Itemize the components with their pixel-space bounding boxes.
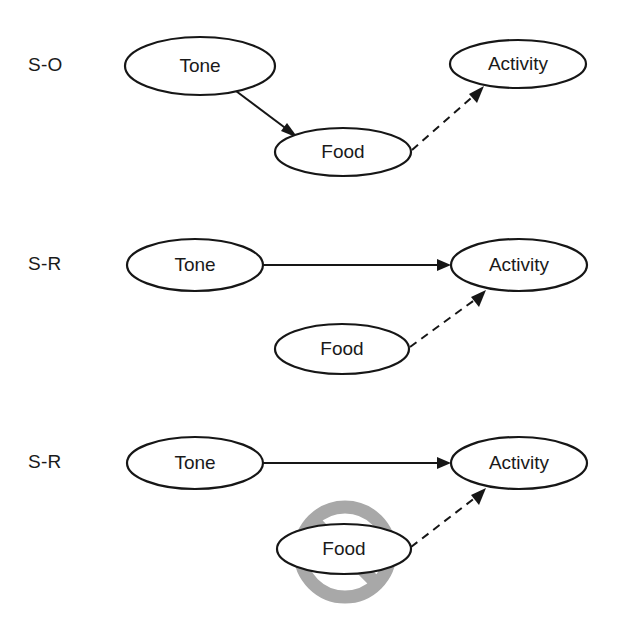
node-tone[interactable]: Tone xyxy=(127,239,263,291)
panel-s-r-2: S-R Tone Food xyxy=(28,437,587,597)
node-activity[interactable]: Activity xyxy=(451,437,587,489)
node-activity[interactable]: Activity xyxy=(451,239,587,291)
edge-tone-to-activity xyxy=(264,457,451,469)
node-activity[interactable]: Activity xyxy=(450,40,586,88)
node-label: Tone xyxy=(174,254,215,275)
node-label: Tone xyxy=(179,55,220,76)
edge-tone-to-activity xyxy=(264,259,451,271)
panel-s-r-1: S-R Tone Food Activity xyxy=(28,239,587,374)
figure-root: S-O Tone Food Activity xyxy=(0,0,617,633)
node-tone[interactable]: Tone xyxy=(127,437,263,489)
arrowhead-icon xyxy=(437,259,451,271)
edge-tone-to-food xyxy=(236,91,298,138)
edge-line xyxy=(412,92,478,150)
arrowhead-icon xyxy=(437,457,451,469)
associative-structure-diagram: S-O Tone Food Activity xyxy=(0,0,617,633)
node-food[interactable]: Food xyxy=(275,128,411,176)
node-label: Food xyxy=(320,338,363,359)
arrowhead-icon xyxy=(471,290,486,307)
edge-food-to-activity xyxy=(410,290,486,347)
arrowhead-icon xyxy=(471,488,486,505)
node-label: Activity xyxy=(489,254,550,275)
node-label: Activity xyxy=(489,452,550,473)
node-tone[interactable]: Tone xyxy=(125,37,275,95)
node-label: Food xyxy=(322,538,365,559)
edge-food-to-activity xyxy=(411,488,486,547)
panel-s-o: S-O Tone Food Activity xyxy=(28,37,586,176)
edge-line xyxy=(411,494,480,547)
edge-line xyxy=(410,296,480,347)
node-food[interactable]: Food xyxy=(277,524,411,574)
panel-label-s-r-2: S-R xyxy=(28,451,62,472)
arrowhead-icon xyxy=(469,86,484,103)
node-label: Food xyxy=(321,141,364,162)
node-label: Tone xyxy=(174,452,215,473)
panel-label-s-o: S-O xyxy=(28,54,63,75)
edge-food-to-activity xyxy=(412,86,484,150)
panel-label-s-r-1: S-R xyxy=(28,253,62,274)
node-food[interactable]: Food xyxy=(275,324,409,374)
node-label: Activity xyxy=(488,53,549,74)
edge-line xyxy=(236,91,292,133)
